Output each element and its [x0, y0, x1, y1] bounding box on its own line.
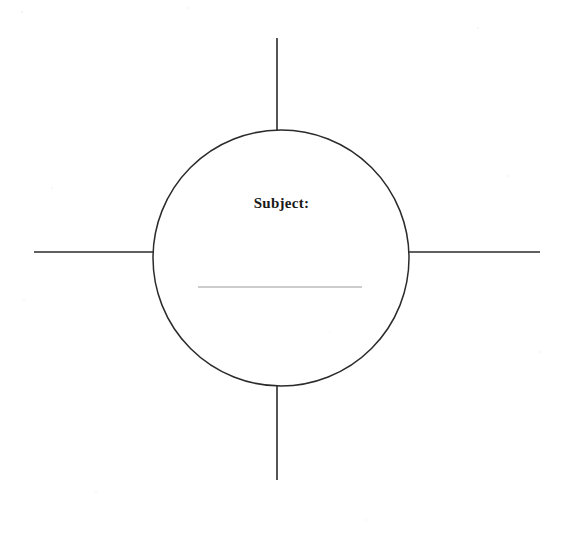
subject-label: Subject:: [153, 195, 410, 212]
worksheet-page: Subject:: [0, 0, 570, 542]
center-circle-node[interactable]: [153, 130, 409, 386]
graphic-organizer-diagram: [0, 0, 570, 542]
